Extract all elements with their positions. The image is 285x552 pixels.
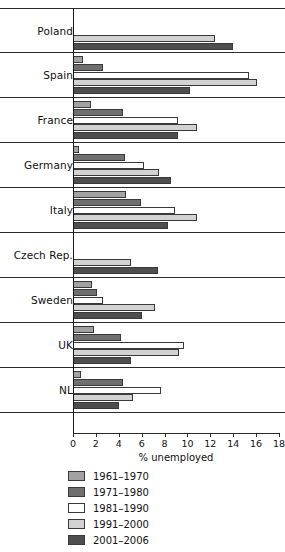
x-axis-title: % unemployed (73, 452, 279, 463)
bar (73, 236, 285, 243)
chart-group: UK (0, 323, 285, 368)
legend-swatch (68, 487, 85, 497)
legend-item: 1971–1980 (68, 484, 149, 500)
chart-group: Italy (0, 188, 285, 233)
bar (73, 244, 285, 251)
bar (73, 191, 126, 198)
legend-swatch (68, 535, 85, 545)
x-tick (119, 433, 120, 437)
bar (73, 214, 197, 221)
legend-swatch (68, 519, 85, 529)
unemployment-bar-chart: PolandSpainFranceGermanyItalyCzech Rep.S… (0, 0, 285, 552)
bar (73, 304, 155, 311)
bar-stack (73, 370, 285, 410)
legend-label: 1971–1980 (93, 487, 149, 498)
x-tick-label: 8 (162, 438, 168, 449)
category-label: Spain (43, 69, 73, 81)
bar (73, 72, 249, 79)
chart-group: Sweden (0, 278, 285, 323)
legend-item: 1981–1990 (68, 500, 149, 516)
bar (73, 162, 144, 169)
bar (73, 199, 141, 206)
x-tick (187, 433, 188, 437)
category-label: France (37, 114, 73, 126)
bar (73, 334, 121, 341)
bar (73, 101, 91, 108)
legend-label: 1991–2000 (93, 519, 149, 530)
bar (73, 349, 179, 356)
x-tick-label: 4 (116, 438, 122, 449)
bar (73, 394, 133, 401)
bar (73, 79, 257, 86)
chart-group: Germany (0, 143, 285, 188)
bar-stack (73, 190, 285, 230)
category-label: Germany (24, 159, 73, 171)
chart-group: Poland (0, 8, 285, 53)
chart-group: NL (0, 368, 285, 413)
x-tick-label: 18 (273, 438, 285, 449)
bar (73, 43, 233, 50)
bar-stack (73, 55, 285, 95)
x-axis-line (73, 433, 279, 434)
bar (73, 177, 171, 184)
bar-stack (73, 145, 285, 185)
bar-stack (73, 325, 285, 365)
bar (73, 56, 83, 63)
x-tick-label: 14 (227, 438, 239, 449)
x-tick (279, 433, 280, 437)
bar (73, 371, 81, 378)
bar (73, 117, 178, 124)
bar (73, 402, 119, 409)
x-tick (96, 433, 97, 437)
x-tick-label: 16 (250, 438, 262, 449)
bar-stack (73, 11, 285, 50)
bar (73, 357, 131, 364)
legend-swatch (68, 503, 85, 513)
bar-stack (73, 100, 285, 140)
chart-group: France (0, 98, 285, 143)
bar (73, 109, 123, 116)
bar (73, 297, 103, 304)
bar-stack (73, 280, 285, 320)
bar (73, 64, 103, 71)
chart-legend: 1961–19701971–19801981–19901991–20002001… (68, 468, 149, 548)
x-tick (210, 433, 211, 437)
x-tick-label: 0 (70, 438, 76, 449)
legend-item: 1961–1970 (68, 468, 149, 484)
x-tick (73, 433, 74, 437)
x-tick (256, 433, 257, 437)
bar (73, 11, 285, 18)
legend-item: 1991–2000 (68, 516, 149, 532)
bar (73, 132, 178, 139)
bar (73, 342, 184, 349)
bar (73, 35, 215, 42)
plot-area: PolandSpainFranceGermanyItalyCzech Rep.S… (0, 8, 285, 433)
category-label: UK (58, 339, 73, 351)
legend-label: 1961–1970 (93, 471, 149, 482)
x-tick (165, 433, 166, 437)
zero-axis-line (73, 8, 74, 433)
bar (73, 169, 159, 176)
bar (73, 312, 142, 319)
bar (73, 379, 123, 386)
bar-stack (73, 235, 285, 275)
x-tick-label: 6 (139, 438, 145, 449)
x-tick (233, 433, 234, 437)
bar (73, 19, 285, 26)
x-tick-label: 10 (181, 438, 193, 449)
chart-group: Spain (0, 53, 285, 98)
bar (73, 87, 190, 94)
category-label: Czech Rep. (14, 249, 73, 261)
legend-label: 2001–2006 (93, 535, 149, 546)
bar (73, 124, 197, 131)
bar (73, 281, 92, 288)
bar (73, 252, 285, 259)
bar (73, 267, 158, 274)
category-label: Poland (37, 25, 73, 37)
x-tick (142, 433, 143, 437)
category-label: Italy (50, 204, 73, 216)
legend-item: 2001–2006 (68, 532, 149, 548)
bar (73, 387, 161, 394)
bar (73, 207, 175, 214)
legend-label: 1981–1990 (93, 503, 149, 514)
